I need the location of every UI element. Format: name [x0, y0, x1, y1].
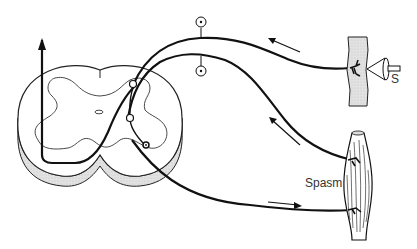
muscle-in-spasm	[344, 131, 372, 240]
arrow-afferent-skin	[268, 38, 300, 52]
stimulus-label: S	[391, 72, 399, 86]
afferent-fiber-skin	[133, 38, 350, 85]
motor-neuron	[143, 142, 149, 148]
interneuron	[127, 115, 134, 122]
reflex-arc-diagram	[0, 0, 417, 249]
sympathetic-ganglion-neuron	[196, 56, 206, 76]
skin-receptor	[347, 37, 368, 106]
dorsal-root-ganglion-neuron	[196, 17, 206, 38]
dorsal-horn-neuron	[130, 81, 137, 88]
spasm-label: Spasm	[305, 176, 342, 190]
